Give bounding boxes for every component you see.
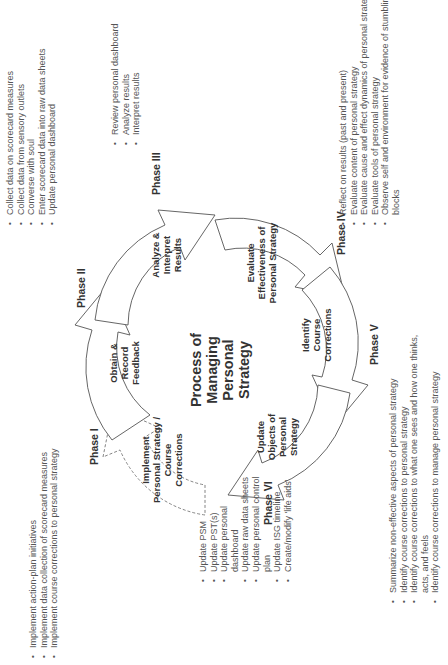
phase-5-bullets: Summarize non-effective aspects of perso…: [388, 323, 441, 603]
center-title: Process of Managing Personal Strategy: [188, 315, 252, 425]
phase-4-arrow-label: EvaluateEffectiveness of Personal Strate…: [245, 213, 278, 313]
phase-1-title: Phase I: [88, 428, 100, 465]
phase-5-title: Phase V: [368, 324, 380, 365]
phase-5-arrow-label: IdentifyCourse Corrections: [300, 295, 333, 375]
phase-4-bullets: Reflect on results (past and present) Ev…: [338, 0, 402, 225]
phase-3-arrow-label: Analyze &Interpret Results: [150, 215, 183, 295]
phase-2-arrow-label: Obtain &Record Feedback: [108, 323, 141, 403]
phase-3-bullets: Review personal dashboard Analyze result…: [110, 0, 142, 145]
phase-6-bullets: Update PSM Update PST(s) Update personal…: [198, 472, 293, 582]
phase-2-bullets: Collect data on scorecard measures Colle…: [5, 0, 58, 225]
phase-1-arrow-label: ImplementPersonal Strategy / CourseCorre…: [140, 405, 184, 515]
phase-1-bullets: Implement action-plan initiatives Implem…: [28, 348, 60, 658]
phase-3-title: Phase III: [150, 152, 162, 195]
diagram-canvas: Process of Managing Personal Strategy Im…: [0, 0, 448, 665]
phase-2-title: Phase II: [75, 268, 87, 308]
phase-6-arrow-label: UpdateObjects of PersonalStrategy: [255, 397, 299, 477]
